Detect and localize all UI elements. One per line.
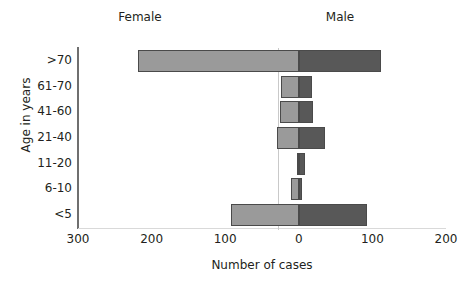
x-tick-100-2: 100 xyxy=(202,232,248,246)
x-tick-300-0: 300 xyxy=(55,232,101,246)
x-tick-0-3: 0 xyxy=(276,232,322,246)
x-tick-100-4: 100 xyxy=(349,232,395,246)
x-tick-200-1: 200 xyxy=(129,232,175,246)
x-tick-200-5: 200 xyxy=(423,232,462,246)
